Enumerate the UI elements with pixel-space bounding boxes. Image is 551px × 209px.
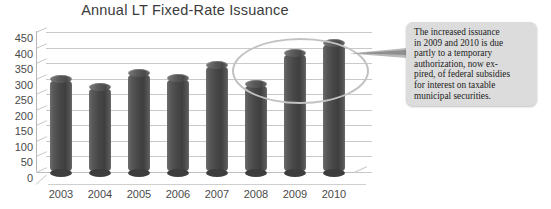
y-tick-100: 100 [0,141,33,153]
bar-top-ellipse [284,49,306,57]
y-tick-400: 400 [0,48,33,60]
bar-2008 [245,84,267,173]
bar-2004 [89,87,111,173]
x-tick-2003: 2003 [41,188,81,200]
bar-2003 [50,79,72,173]
bar-base-ellipse [128,169,150,177]
bar-base-ellipse [284,169,306,177]
bar-top-ellipse [245,80,267,88]
bar-2005 [128,73,150,173]
y-tick-200: 200 [0,110,33,122]
bar-base-ellipse [167,169,189,177]
bar-2009 [284,53,306,173]
x-tick-2005: 2005 [119,188,159,200]
bottom-crop-band [0,203,551,209]
bar-series [36,33,366,185]
plot-area [36,33,366,185]
y-axis-tick-labels: 450400350300250200150100500 [0,26,33,178]
x-axis-tick-labels: 20032004200520062007200820092010 [36,188,376,204]
bar-base-ellipse [50,169,72,177]
x-tick-2009: 2009 [275,188,315,200]
y-tick-50: 50 [0,156,33,168]
bar-top-ellipse [128,69,150,77]
x-tick-2010: 2010 [314,188,354,200]
bar-top-ellipse [89,83,111,91]
chart-canvas: Annual LT Fixed-Rate Issuance 4504003503… [0,0,551,209]
bar-2006 [167,78,189,173]
y-tick-250: 250 [0,94,33,106]
chart-title: Annual LT Fixed-Rate Issuance [55,2,315,18]
bar-2010 [323,43,345,173]
bar-top-ellipse [206,61,228,69]
x-tick-2006: 2006 [158,188,198,200]
x-tick-2008: 2008 [236,188,276,200]
bar-2007 [206,65,228,173]
bar-top-ellipse [50,75,72,83]
y-tick-450: 450 [0,32,33,44]
y-tick-150: 150 [0,125,33,137]
callout-text: The increased issuance in 2009 and 2010 … [414,27,532,101]
bar-base-ellipse [245,169,267,177]
y-tick-0: 0 [0,172,33,184]
x-tick-2007: 2007 [197,188,237,200]
x-tick-2004: 2004 [80,188,120,200]
bar-base-ellipse [323,169,345,177]
callout-box: The increased issuance in 2009 and 2010 … [406,22,537,106]
y-tick-300: 300 [0,79,33,91]
y-tick-350: 350 [0,63,33,75]
bar-top-ellipse [323,39,345,47]
bar-top-ellipse [167,74,189,82]
bar-base-ellipse [206,169,228,177]
bar-base-ellipse [89,169,111,177]
